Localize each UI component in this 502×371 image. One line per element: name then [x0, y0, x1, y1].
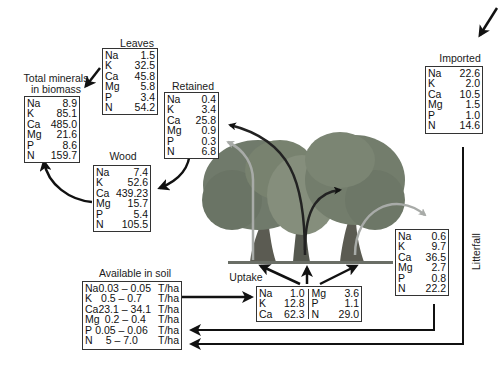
uptake-title: Uptake: [226, 272, 266, 283]
imported-box: Na22.6 K2.0 Ca10.5 Mg1.5 P1.0 N14.6: [425, 66, 483, 134]
total-biomass-box: Na8.9 K85.1 Ca485.0 Mg21.6 P8.6 N159.7: [24, 96, 80, 163]
wood-box: Na7.4 K52.6 Ca439.23 Mg15.7 P5.4 N105.5: [93, 165, 151, 232]
retained-box: Na0.4 K3.4 Ca25.8 Mg0.9 P0.3 N6.8: [164, 92, 219, 159]
leaves-box: Na1.5 K32.5 Ca45.8 Mg5.8 P3.4 N54.2: [102, 48, 158, 115]
soil-title: Available in soil: [90, 268, 180, 279]
leaves-row: N54.2: [105, 102, 155, 112]
soil-box: Na0.03 – 0.05T/ha K0.5 – 0.7T/ha Ca23.1 …: [82, 281, 182, 350]
trees-illustration: [202, 132, 405, 264]
litter-box: Na0.6 K9.7 Ca36.5 Mg2.7 P0.8 N22.2: [395, 229, 449, 296]
imported-title: Imported: [430, 53, 490, 64]
diagram-graphics: [0, 0, 502, 371]
litterfall-label: Litterfall: [470, 233, 482, 270]
total-title-line2: in biomass: [16, 84, 96, 95]
uptake-box: Na1.0 K12.8 Ca62.3 Mg3.6 P1.1 N29.0: [256, 286, 362, 322]
wood-title: Wood: [100, 151, 146, 162]
retained-title: Retained: [168, 81, 218, 92]
uptake-divider: [308, 289, 309, 319]
